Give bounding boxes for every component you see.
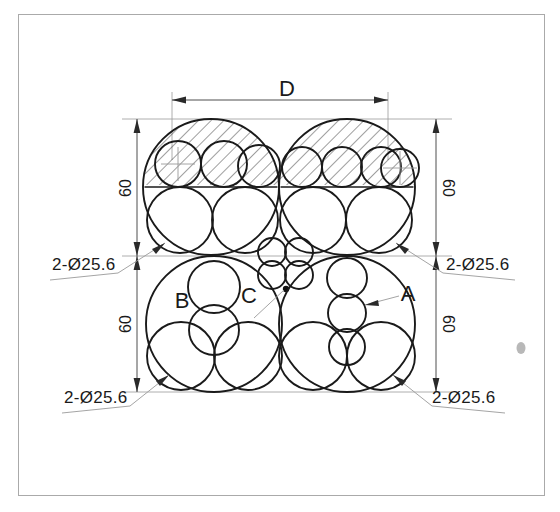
callout-top-left-text: 2-Ø25.6 <box>52 255 116 274</box>
dimension-60-bottom-right: 60 <box>433 256 457 392</box>
assembly-top-left <box>143 119 280 255</box>
assembly-bottom-left: B <box>146 256 282 392</box>
label-c: C <box>241 283 257 308</box>
callout-top-right: 2-Ø25.6 <box>396 243 515 280</box>
inner-circle-large <box>212 187 278 253</box>
dimension-60-bottom-left-label: 60 <box>117 315 134 333</box>
inner-circle-large <box>279 322 347 390</box>
dimension-60-bottom-left: 60 <box>117 256 140 392</box>
dimension-60-top-right-label: 60 <box>440 179 457 197</box>
inner-circle-large <box>147 187 213 253</box>
inner-circle-large <box>147 322 215 390</box>
label-a: A <box>401 281 416 306</box>
technical-drawing-canvas: D 60 60 60 60 <box>0 0 560 512</box>
callout-bottom-right-text: 2-Ø25.6 <box>432 388 496 407</box>
drawing-sheet: D 60 60 60 60 <box>0 0 560 512</box>
scan-artifact-smudge <box>517 342 526 354</box>
inner-circle-small <box>327 258 367 298</box>
inner-circle-large <box>214 322 282 390</box>
dimension-d: D <box>172 76 388 103</box>
callout-bottom-right: 2-Ø25.6 <box>393 375 505 413</box>
inner-circle-large <box>346 187 412 253</box>
dimension-60-top-left: 60 <box>117 119 140 256</box>
dimension-60-bottom-right-label: 60 <box>440 315 457 333</box>
inner-circle-small <box>328 294 366 332</box>
inner-circle-large <box>280 187 346 253</box>
callout-top-right-text: 2-Ø25.6 <box>446 255 510 274</box>
label-b: B <box>175 288 190 313</box>
dimension-60-top-right: 60 <box>433 119 457 256</box>
hatch-region-top-left <box>143 119 279 185</box>
dimension-60-top-left-label: 60 <box>117 179 134 197</box>
callout-bottom-left-text: 2-Ø25.6 <box>64 388 128 407</box>
assembly-top-right <box>279 119 419 255</box>
leader-a: A <box>365 281 416 306</box>
callout-bottom-left: 2-Ø25.6 <box>62 375 169 413</box>
dimension-d-label: D <box>279 76 295 101</box>
callout-top-left: 2-Ø25.6 <box>50 243 165 280</box>
assembly-bottom-right <box>279 256 415 392</box>
inner-circle-large <box>347 322 415 390</box>
